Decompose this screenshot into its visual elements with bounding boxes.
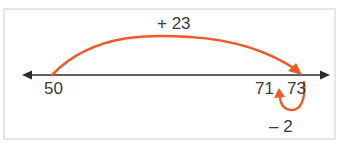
tick-label-73: 73 (287, 80, 306, 97)
jump-back-arrowhead-icon (274, 88, 285, 98)
jump-forward-label: + 23 (157, 15, 191, 32)
tick-label-50: 50 (44, 80, 63, 97)
jump-back-label: – 2 (269, 118, 293, 135)
tick-label-71: 71 (255, 80, 274, 97)
right-arrowhead-icon (320, 71, 330, 80)
left-arrowhead-icon (22, 71, 32, 80)
jump-forward-arc (52, 36, 302, 75)
number-line (22, 71, 330, 80)
